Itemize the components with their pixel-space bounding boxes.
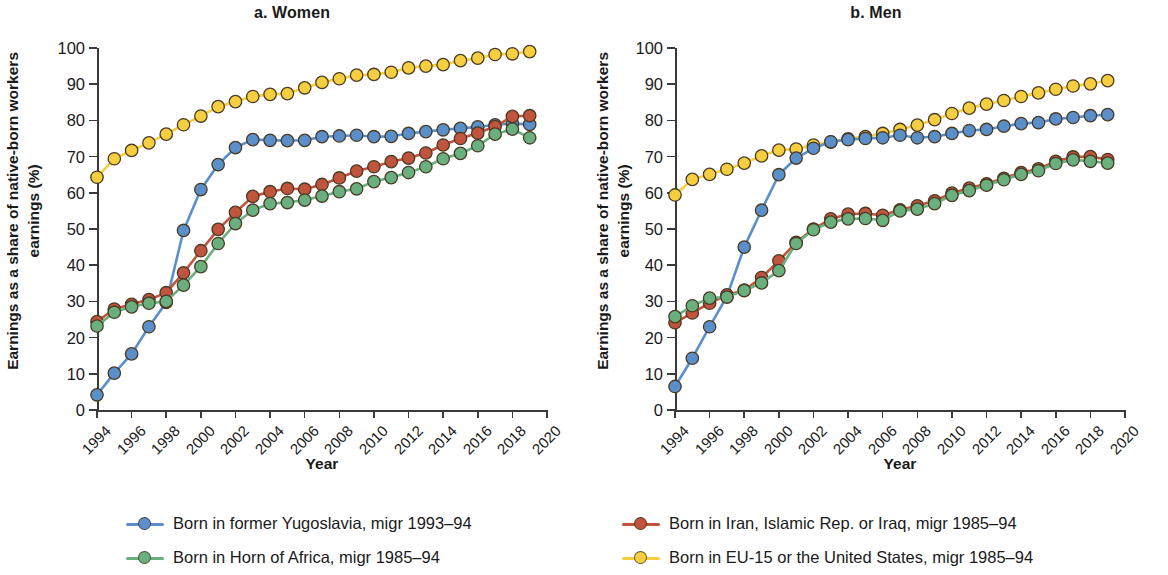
series-1 [669,150,1114,329]
data-point [1067,154,1079,166]
x-tick-label: 2000 [182,422,218,458]
x-tick [269,410,271,418]
data-point [489,128,501,140]
panel-men-plot-area: 0102030405060708090100 19941996199820002… [675,48,1125,410]
panel-women-plot-area: 0102030405060708090100 19941996199820002… [97,48,547,410]
x-tick-label: 2020 [528,422,564,458]
legend-item-yugoslavia: Born in former Yugoslavia, migr 1993–94 [126,514,472,533]
series-0 [91,117,536,401]
data-point [1084,78,1096,90]
data-point [669,380,681,392]
y-tick-label: 90 [645,75,663,94]
data-point [91,320,103,332]
x-tick [339,410,341,418]
y-tick [667,47,675,49]
x-tick-label: 2012 [390,422,426,458]
data-point [928,130,940,142]
x-tick [477,410,479,418]
data-point [143,321,155,333]
y-tick [667,156,675,158]
data-point [807,224,819,236]
data-point [195,260,207,272]
data-point [963,184,975,196]
y-tick-label: 80 [645,111,663,130]
x-tick-label: 2010 [355,422,391,458]
data-point [91,389,103,401]
y-tick-label: 60 [67,183,85,202]
data-point [264,88,276,100]
series-line [675,157,1108,323]
y-tick [89,120,97,122]
data-point [472,127,484,139]
y-tick [89,301,97,303]
data-point [368,161,380,173]
legend-label-horn-of-africa: Born in Horn of Africa, migr 1985–94 [173,548,440,567]
data-point [721,291,733,303]
data-point [1032,116,1044,128]
x-tick-label: 2002 [217,422,253,458]
data-point [195,110,207,122]
data-point [212,223,224,235]
legend-marker-icon-yugoslavia [126,515,164,533]
data-point [669,189,681,201]
data-point [703,292,715,304]
data-point [825,216,837,228]
data-point [946,107,958,119]
data-point [281,196,293,208]
figure-root: a. Women Earnings as a share of native-b… [0,0,1168,575]
data-point [195,183,207,195]
data-point [143,297,155,309]
panel-men-title: b. Men [584,4,1168,22]
y-tick [89,156,97,158]
data-point [703,168,715,180]
data-point [316,130,328,142]
y-tick-label: 80 [67,111,85,130]
panel-men-series-layer [675,48,1125,410]
data-point [523,132,535,144]
data-point [472,140,484,152]
data-point [686,300,698,312]
x-tick-label: 1994 [656,422,692,458]
legend: Born in former Yugoslavia, migr 1993–94 … [0,505,1168,575]
data-point [1101,108,1113,120]
data-point [842,133,854,145]
data-point [928,113,940,125]
y-tick [667,264,675,266]
y-tick-label: 20 [67,328,85,347]
panel-women: a. Women Earnings as a share of native-b… [0,0,584,505]
data-point [773,169,785,181]
data-point [385,66,397,78]
data-point [669,310,681,322]
data-point [160,128,172,140]
data-point [368,130,380,142]
data-point [721,163,733,175]
x-tick [1090,410,1092,418]
data-point [420,161,432,173]
panel-women-title: a. Women [0,4,584,22]
data-point [368,175,380,187]
data-point [1050,157,1062,169]
data-point [686,173,698,185]
data-point [281,134,293,146]
x-tick [1055,410,1057,418]
data-point [773,264,785,276]
y-tick [89,83,97,85]
x-tick-label: 1994 [78,422,114,458]
data-point [108,306,120,318]
panel-men-y-axis-label: Earnings as a share of native-born worke… [593,41,635,381]
data-point [316,178,328,190]
data-point [928,197,940,209]
y-tick [89,192,97,194]
y-tick [667,301,675,303]
x-tick [951,410,953,418]
series-2 [91,123,536,332]
panel-women-x-axis-label: Year [97,455,547,473]
data-point [212,237,224,249]
data-point [1015,168,1027,180]
data-point [946,189,958,201]
data-point [1015,90,1027,102]
x-tick [813,410,815,418]
y-tick-label: 0 [654,401,663,420]
legend-marker-icon-iran-iraq [622,515,660,533]
x-tick-label: 1996 [113,422,149,458]
